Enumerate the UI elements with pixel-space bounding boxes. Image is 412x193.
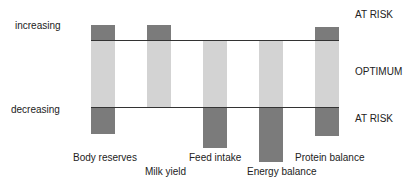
zone-label-upper-at-risk: AT RISK: [355, 9, 393, 21]
zone-label-optimum: OPTIMUM: [355, 66, 402, 78]
bar-milk-yield-upper-risk: [147, 25, 171, 40]
axis-label-decreasing: decreasing: [11, 104, 60, 116]
indicator-label-energy-balance: Energy balance: [247, 166, 317, 178]
bar-energy-balance-lower-risk: [259, 107, 283, 162]
lower-threshold-line: [91, 107, 339, 108]
indicator-label-milk-yield: Milk yield: [145, 166, 186, 178]
bar-feed-intake-lower-risk: [203, 107, 227, 148]
bar-protein-balance-optimum: [315, 40, 339, 107]
indicator-label-feed-intake: Feed intake: [189, 152, 241, 164]
bar-body-reserves-upper-risk: [91, 25, 115, 40]
bar-milk-yield-optimum: [147, 40, 171, 107]
bar-energy-balance-optimum: [259, 40, 283, 107]
upper-threshold-line: [91, 40, 339, 41]
bar-body-reserves-lower-risk: [91, 107, 115, 134]
bar-protein-balance-lower-risk: [315, 107, 339, 136]
bar-protein-balance-upper-risk: [315, 27, 339, 40]
indicator-label-protein-balance: Protein balance: [295, 152, 365, 164]
axis-label-increasing: increasing: [15, 20, 61, 32]
indicator-label-body-reserves: Body reserves: [73, 152, 137, 164]
bar-feed-intake-optimum: [203, 40, 227, 107]
zone-label-lower-at-risk: AT RISK: [355, 113, 393, 125]
bar-body-reserves-optimum: [91, 40, 115, 107]
